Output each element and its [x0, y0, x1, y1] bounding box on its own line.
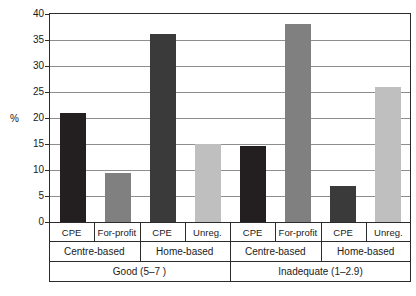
y-tick-label: 0: [22, 217, 44, 227]
tier-separator: [140, 242, 141, 262]
tier-separator: [94, 223, 95, 242]
x-label-setting: Home-based: [321, 246, 412, 257]
tier-separator: [230, 242, 231, 262]
x-label-provider: Unreg.: [185, 227, 230, 238]
bar: [285, 24, 311, 222]
x-label-quality: Inadequate (1–2.9): [230, 266, 411, 277]
tier-separator: [366, 223, 367, 242]
tier-edge: [49, 223, 50, 242]
y-tick-label: 30: [22, 61, 44, 71]
tier-edge: [49, 262, 50, 282]
x-axis-tier-setting: Centre-basedHome-basedCentre-basedHome-b…: [49, 242, 411, 262]
bar: [240, 146, 266, 222]
bar: [330, 186, 356, 222]
x-label-provider: CPE: [49, 227, 94, 238]
tier-separator: [230, 262, 231, 282]
tier-separator: [321, 223, 322, 242]
x-label-provider: CPE: [321, 227, 366, 238]
tier-bottom-rule: [49, 281, 411, 282]
tier-edge: [49, 242, 50, 262]
x-label-provider: For-profit: [94, 227, 139, 238]
y-tick-label: 20: [22, 113, 44, 123]
bar: [150, 34, 176, 222]
x-axis-tier-quality: Good (5–7 )Inadequate (1–2.9): [49, 262, 411, 282]
x-label-provider: CPE: [230, 227, 275, 238]
tier-separator: [140, 223, 141, 242]
tier-separator: [185, 223, 186, 242]
bar: [195, 144, 221, 222]
tier-edge: [410, 223, 411, 242]
bars-layer: [50, 14, 410, 222]
x-label-provider: CPE: [140, 227, 185, 238]
bar: [60, 113, 86, 222]
y-tick-label: 10: [22, 165, 44, 175]
tier-edge: [410, 262, 411, 282]
tier-edge: [410, 242, 411, 262]
y-tick-label: 40: [22, 9, 44, 19]
x-label-provider: For-profit: [275, 227, 320, 238]
x-label-setting: Centre-based: [49, 246, 140, 257]
tier-separator: [230, 223, 231, 242]
x-label-quality: Good (5–7 ): [49, 266, 230, 277]
y-tick-label: 5: [22, 191, 44, 201]
bar: [105, 173, 131, 222]
x-label-setting: Home-based: [140, 246, 231, 257]
y-tick-label: 35: [22, 35, 44, 45]
y-tick-label: 15: [22, 139, 44, 149]
bar-chart: % 4035302520151050 CPEFor-profitCPEUnreg…: [0, 0, 416, 296]
tier-separator: [275, 223, 276, 242]
tier-separator: [321, 242, 322, 262]
y-tick-label: 25: [22, 87, 44, 97]
y-axis-title: %: [3, 113, 19, 125]
x-axis-tier-provider: CPEFor-profitCPEUnreg.CPEFor-profitCPEUn…: [49, 223, 411, 242]
bar: [375, 87, 401, 222]
x-label-provider: Unreg.: [366, 227, 411, 238]
x-label-setting: Centre-based: [230, 246, 321, 257]
